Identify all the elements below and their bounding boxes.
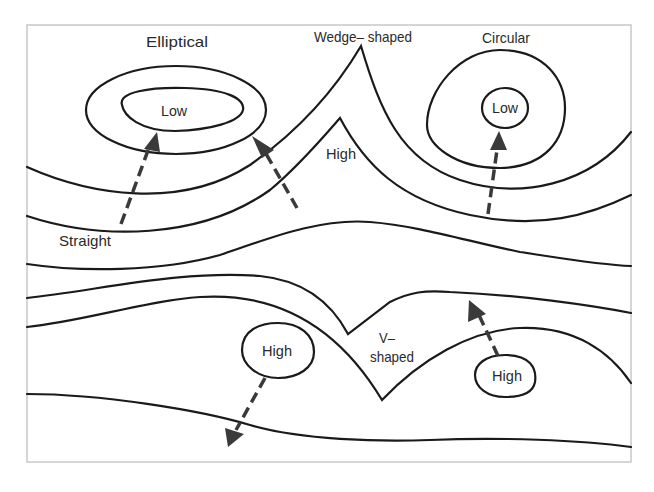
straight-isobar-1: [27, 221, 631, 269]
v-shaped-upper-isobar: [27, 275, 631, 334]
label-high-right: High: [492, 367, 522, 384]
wind-arrow-to-circular-low: [488, 131, 507, 214]
label-straight: Straight: [59, 232, 112, 249]
label-v-shaped-1: V–: [379, 329, 396, 346]
wedge-shaped-isobar: [27, 46, 631, 194]
high-ridge-isobar: [27, 118, 631, 232]
label-high-ridge: High: [326, 145, 356, 162]
bottom-isobar: [27, 394, 631, 447]
label-low-circular: Low: [492, 99, 518, 116]
label-wedge-shaped: Wedge– shaped: [314, 28, 412, 45]
label-elliptical: Elliptical: [146, 33, 208, 50]
label-v-shaped-2: shaped: [370, 348, 414, 365]
isobar-pattern-diagram: Elliptical Wedge– shaped Circular Low Lo…: [0, 0, 654, 492]
wind-arrow-from-high-left: [225, 378, 265, 447]
wind-arrow-from-high-right: [468, 300, 498, 356]
label-high-left: High: [262, 342, 292, 359]
label-low-elliptical: Low: [161, 102, 187, 119]
label-circular: Circular: [482, 29, 530, 46]
v-shaped-lower-isobar: [27, 297, 631, 400]
